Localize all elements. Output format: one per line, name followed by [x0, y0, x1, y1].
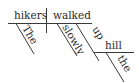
- prep-object-word: hill: [105, 39, 122, 51]
- subject-word: hikers: [14, 9, 47, 21]
- sentence-diagram: hikers walked The slowly up hill the: [0, 0, 139, 83]
- object-article-word: the: [115, 53, 134, 74]
- verb-word: walked: [53, 9, 91, 21]
- subject-article-word: The: [20, 23, 41, 46]
